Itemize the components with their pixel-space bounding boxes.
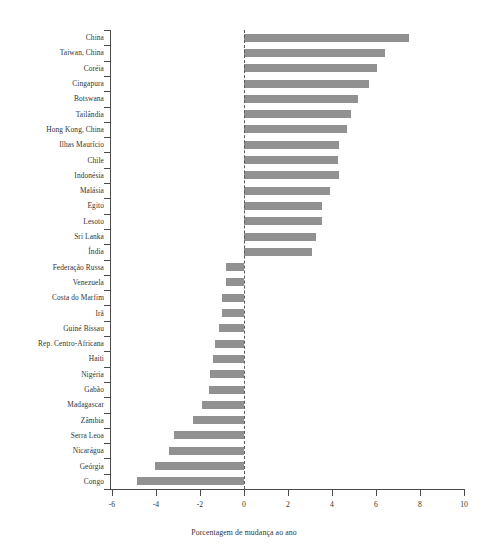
- bar: [209, 386, 244, 394]
- x-axis-tick-label: -4: [136, 500, 176, 510]
- x-axis-tick-label: 2: [268, 500, 308, 510]
- y-axis-tick: [104, 413, 111, 414]
- bar: [244, 171, 339, 179]
- bar: [155, 462, 244, 470]
- bar: [244, 187, 330, 195]
- bar: [226, 278, 244, 286]
- bar: [222, 294, 244, 302]
- y-axis-tick: [104, 107, 111, 108]
- y-axis-tick: [104, 382, 111, 383]
- bar: [193, 416, 244, 424]
- bar: [244, 141, 339, 149]
- bar: [244, 156, 338, 164]
- y-axis-tick: [104, 91, 111, 92]
- y-axis-tick: [104, 76, 111, 77]
- x-axis-tick-label: -6: [92, 500, 132, 510]
- y-axis-tick: [104, 244, 111, 245]
- bar: [244, 217, 322, 225]
- x-axis-tick-label: 6: [356, 500, 396, 510]
- x-axis-tick: [420, 489, 421, 496]
- zero-reference-line: [244, 30, 245, 489]
- y-axis-tick: [104, 336, 111, 337]
- x-axis-tick: [376, 489, 377, 496]
- x-axis-tick: [332, 489, 333, 496]
- y-axis-tick: [104, 214, 111, 215]
- y-axis-tick: [104, 122, 111, 123]
- bar: [244, 80, 369, 88]
- bar: [174, 431, 244, 439]
- bar: [244, 64, 377, 72]
- x-axis-tick-label: -2: [180, 500, 220, 510]
- bar: [222, 309, 244, 317]
- bar: [244, 95, 358, 103]
- x-axis-tick-label: 8: [400, 500, 440, 510]
- y-axis-tick: [104, 152, 111, 153]
- bar: [137, 477, 244, 485]
- y-axis-tick: [104, 290, 111, 291]
- x-axis-tick: [464, 489, 465, 496]
- y-axis-tick: [104, 168, 111, 169]
- bar: [215, 340, 244, 348]
- bar: [244, 125, 347, 133]
- y-axis-tick: [104, 198, 111, 199]
- y-axis-tick: [104, 183, 111, 184]
- x-axis-tick: [156, 489, 157, 496]
- bar: [244, 248, 312, 256]
- x-axis-tick-label: 4: [312, 500, 352, 510]
- bar-chart: ChinaTaiwan, ChinaCoréiaCingapuraBotswan…: [0, 0, 488, 558]
- bar: [244, 202, 322, 210]
- y-axis-tick: [104, 367, 111, 368]
- y-axis-tick: [104, 474, 111, 475]
- y-axis-tick: [104, 30, 111, 31]
- y-axis-tick: [104, 61, 111, 62]
- y-axis-tick: [104, 397, 111, 398]
- y-axis-tick: [104, 260, 111, 261]
- x-axis-tick: [200, 489, 201, 496]
- y-axis-tick: [104, 458, 111, 459]
- x-axis-tick-label: 0: [224, 500, 264, 510]
- x-axis-tick-label: 10: [444, 500, 484, 510]
- y-axis-tick: [104, 321, 111, 322]
- bar: [202, 401, 244, 409]
- x-axis-title: Porcentagem de mudança ao ano: [0, 528, 488, 537]
- x-axis-tick: [244, 489, 245, 496]
- y-axis-tick: [104, 45, 111, 46]
- y-axis-tick: [104, 351, 111, 352]
- plot-area: ChinaTaiwan, ChinaCoréiaCingapuraBotswan…: [0, 0, 488, 558]
- bar: [226, 263, 244, 271]
- y-axis-tick: [104, 443, 111, 444]
- bar: [213, 355, 244, 363]
- bar: [169, 447, 244, 455]
- y-axis-tick: [104, 229, 111, 230]
- y-axis-tick: [104, 305, 111, 306]
- bar: [219, 324, 244, 332]
- x-axis-tick: [112, 489, 113, 496]
- bar: [244, 34, 409, 42]
- bar: [210, 370, 244, 378]
- bar: [244, 49, 385, 57]
- x-axis-tick: [288, 489, 289, 496]
- y-axis-tick: [104, 428, 111, 429]
- y-axis-tick: [104, 137, 111, 138]
- x-axis-line: [110, 489, 464, 490]
- y-axis-tick: [104, 489, 111, 490]
- bar: [244, 233, 316, 241]
- y-axis-tick: [104, 275, 111, 276]
- bar: [244, 110, 351, 118]
